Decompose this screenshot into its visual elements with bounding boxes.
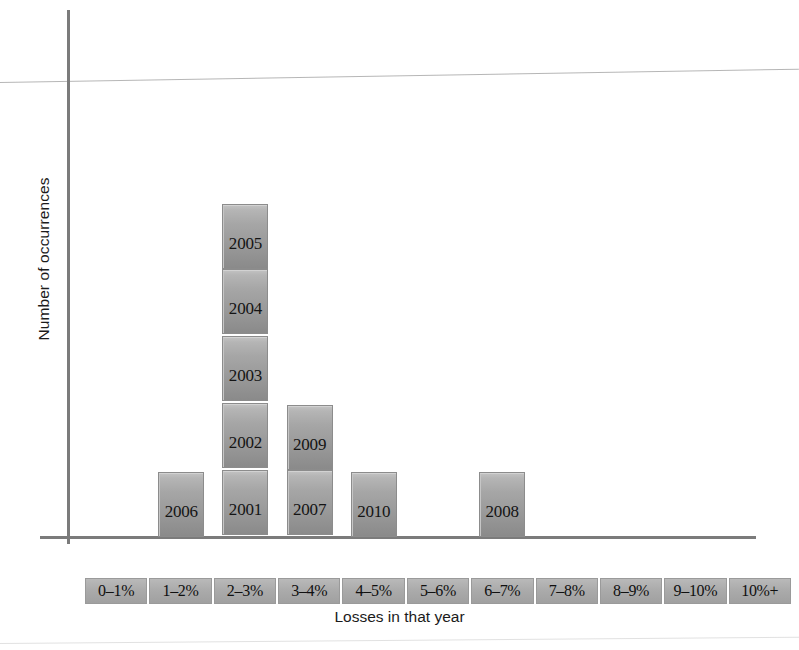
bar-segment-year-label: 2005	[223, 234, 267, 254]
x-axis-title: Losses in that year	[0, 608, 799, 626]
x-axis-tick-label: 3–4%	[278, 578, 340, 604]
bar-column: 2010	[342, 472, 406, 537]
bar-column: 20052004200320022001	[213, 204, 277, 537]
bar-segment-year-label: 2004	[223, 299, 267, 319]
bar-segment: 2010	[351, 472, 397, 537]
x-axis-tick-label: 7–8%	[536, 578, 598, 604]
x-axis-tick-label: 6–7%	[471, 578, 533, 604]
bar-segment: 2005	[222, 204, 268, 269]
x-axis-tick-labels: 0–1%1–2%2–3%3–4%4–5%5–6%6–7%7–8%8–9%9–10…	[85, 578, 791, 604]
plot-area: 2006200520042003200220012009200720102008	[85, 0, 791, 537]
bar-segment: 2001	[222, 470, 268, 535]
scan-artifact-line-bottom	[0, 637, 799, 644]
y-axis-line	[67, 10, 70, 544]
histogram-chart: Number of occurrences 200620052004200320…	[0, 0, 799, 650]
bar-column: 20092007	[278, 405, 342, 537]
x-axis-tick-label: 9–10%	[664, 578, 726, 604]
x-axis-tick-label: 10%+	[729, 578, 791, 604]
bar-segment: 2009	[287, 405, 333, 470]
bar-segment: 2002	[222, 403, 268, 468]
bar-column: 2006	[149, 472, 213, 537]
y-axis-title: Number of occurrences	[35, 149, 53, 369]
bar-segment: 2008	[479, 472, 525, 537]
bar-segment: 2003	[222, 336, 268, 401]
bar-segment-year-label: 2001	[223, 500, 267, 520]
bar-segment: 2006	[158, 472, 204, 537]
x-axis-tick-label: 5–6%	[407, 578, 469, 604]
bar-segment-year-label: 2009	[288, 435, 332, 455]
bar-segment: 2007	[287, 470, 333, 535]
bar-segment: 2004	[222, 269, 268, 334]
bar-segment-year-label: 2010	[352, 502, 396, 522]
bar-segment-year-label: 2006	[159, 502, 203, 522]
bar-segment-year-label: 2007	[288, 500, 332, 520]
x-axis-tick-label: 0–1%	[85, 578, 147, 604]
x-axis-tick-label: 4–5%	[342, 578, 404, 604]
x-axis-tick-label: 1–2%	[149, 578, 211, 604]
bar-segment-year-label: 2003	[223, 366, 267, 386]
bar-segment-year-label: 2008	[480, 502, 524, 522]
bar-column: 2008	[470, 472, 534, 537]
x-axis-tick-label: 2–3%	[214, 578, 276, 604]
x-axis-tick-label: 8–9%	[600, 578, 662, 604]
bar-segment-year-label: 2002	[223, 433, 267, 453]
